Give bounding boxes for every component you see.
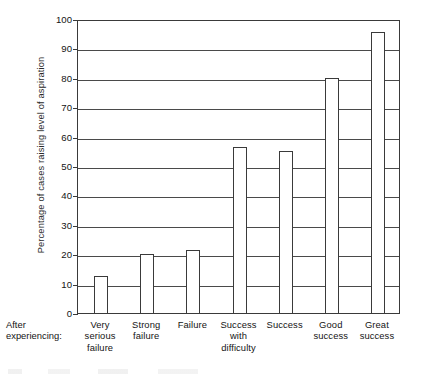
gridline-60 (78, 139, 399, 140)
x-category-label-1-line-1: failure (115, 330, 177, 341)
bar-4 (279, 151, 293, 313)
x-axis-prefix-label: After experiencing: (6, 319, 76, 342)
x-axis-prefix-line2: experiencing: (6, 330, 76, 341)
y-tick-label-40: 40 (46, 191, 72, 201)
x-category-label-0-line-2: failure (69, 342, 131, 353)
bar-0 (94, 276, 108, 313)
y-tick-label-50: 50 (46, 162, 72, 172)
bar-1 (140, 254, 154, 313)
gridline-70 (78, 109, 399, 110)
caption-smudge (8, 369, 198, 374)
bar-3 (233, 147, 247, 313)
y-tick-label-90: 90 (46, 44, 72, 54)
bar-chart-figure: Percentage of cases raising level of asp… (0, 0, 421, 379)
y-tick-label-80: 80 (46, 74, 72, 84)
bar-5 (325, 78, 339, 313)
x-category-label-3-line-2: difficulty (208, 342, 270, 353)
plot-area (77, 20, 400, 314)
x-category-label-6-line-1: success (346, 330, 408, 341)
y-tick-label-20: 20 (46, 250, 72, 260)
gridline-80 (78, 80, 399, 81)
y-tick-label-30: 30 (46, 221, 72, 231)
x-axis-prefix-line1: After (6, 319, 76, 330)
bar-2 (186, 250, 200, 313)
x-category-label-6-line-0: Great (346, 319, 408, 330)
y-tick-label-10: 10 (46, 280, 72, 290)
bar-6 (371, 32, 385, 313)
x-category-label-3-line-1: with (208, 330, 270, 341)
y-tick-label-60: 60 (46, 133, 72, 143)
y-tick-mark-0 (73, 314, 78, 315)
gridline-90 (78, 50, 399, 51)
y-tick-label-0: 0 (46, 309, 72, 319)
y-tick-label-100: 100 (46, 15, 72, 25)
y-tick-label-70: 70 (46, 103, 72, 113)
x-category-label-6: Greatsuccess (346, 319, 408, 342)
